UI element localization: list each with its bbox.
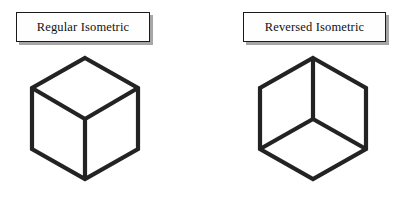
cube-regular-isometric	[20, 48, 151, 190]
label-text-regular-isometric: Regular Isometric	[37, 21, 129, 34]
label-box-reversed-isometric: Reversed Isometric	[243, 12, 386, 42]
cube-reversed-isometric	[248, 48, 379, 190]
label-text-reversed-isometric: Reversed Isometric	[265, 21, 365, 34]
isometric-cube-figure: Regular Isometric Reversed Isometric	[0, 0, 401, 202]
label-box-regular-isometric: Regular Isometric	[16, 12, 150, 42]
